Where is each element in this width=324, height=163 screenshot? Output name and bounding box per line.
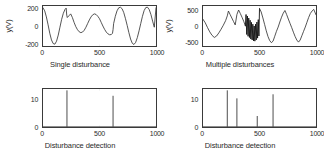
x-axis-title: Disturbance detection: [0, 141, 160, 150]
x-axis-title: Disturbance detection: [160, 141, 320, 150]
panel-multiple-disturbances-signal: y(V) 500 0 -500 0 500 1000 Multiple dist: [160, 0, 320, 82]
y-tick-label: 200: [27, 5, 38, 12]
x-tick-label: 500: [94, 49, 105, 56]
y-axis-title: y(V): [4, 20, 13, 33]
x-tick-label: 500: [254, 130, 265, 137]
panel-single-disturbance-detection: 10 0 0 500 1000 Disturbance detection: [0, 82, 160, 163]
x-tick-label: 0: [40, 49, 44, 56]
y-tick-label: 500: [187, 7, 198, 14]
plot-area-multiple-disturbances: [202, 5, 317, 47]
y-tick-label: 0: [194, 23, 198, 30]
panel-multiple-disturbances-detection: 10 0 0 500 1000 Disturbance detection: [160, 82, 320, 163]
x-tick-label: 500: [254, 49, 265, 56]
y-axis-tick-labels: 10 0: [16, 88, 38, 128]
plot-area-multiple-detection: [202, 88, 317, 128]
x-tick-label: 1000: [310, 130, 324, 137]
y-axis-title: y(V): [164, 20, 173, 33]
x-tick-label: 1000: [310, 49, 324, 56]
y-tick-label: 0: [194, 123, 198, 130]
panel-single-disturbance-signal: y(V) 200 0 -200 0 500 1000 Single distur…: [0, 0, 160, 82]
plot-area-single-disturbance: [42, 5, 157, 47]
x-tick-label: 0: [200, 49, 204, 56]
plot-area-single-detection: [42, 88, 157, 128]
x-axis-title: Multiple disturbances: [160, 60, 320, 69]
y-tick-label: -200: [25, 40, 38, 47]
y-tick-label: 10: [31, 96, 38, 103]
x-tick-label: 500: [94, 130, 105, 137]
y-tick-label: 0: [34, 23, 38, 30]
y-tick-label: 0: [34, 123, 38, 130]
x-axis-title: Single disturbance: [0, 60, 160, 69]
y-tick-label: -500: [185, 38, 198, 45]
x-tick-label: 0: [40, 130, 44, 137]
y-tick-label: 10: [191, 96, 198, 103]
x-tick-label: 0: [200, 130, 204, 137]
y-axis-tick-labels: 500 0 -500: [176, 5, 198, 47]
y-axis-tick-labels: 10 0: [176, 88, 198, 128]
y-axis-tick-labels: 200 0 -200: [16, 5, 38, 47]
